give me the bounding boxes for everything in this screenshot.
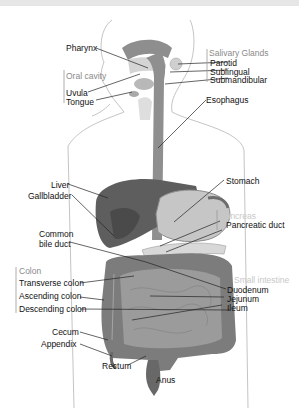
label-liver: Liver xyxy=(51,180,69,190)
label-rectum: Rectum xyxy=(102,361,131,371)
label-stomach: Stomach xyxy=(226,176,260,186)
group-label-oral-cavity: Oral cavity xyxy=(66,71,106,81)
label-ascending-colon: Ascending colon xyxy=(19,291,81,301)
label-descending-colon: Descending colon xyxy=(19,304,87,314)
label-pancreatic-duct: Pancreatic duct xyxy=(226,220,285,230)
label-common-bile-duct-line2: bile duct xyxy=(39,239,71,249)
label-ileum: Ileum xyxy=(227,303,248,313)
label-anus: Anus xyxy=(156,375,175,385)
group-label-small-intestine: Small intestine xyxy=(234,275,289,285)
label-submandibular: Submandibular xyxy=(210,75,267,85)
label-esophagus: Esophagus xyxy=(206,95,249,105)
label-tongue: Tongue xyxy=(66,97,94,107)
label-common-bile-duct-line1: Common xyxy=(39,229,73,239)
group-label-salivary-glands: Salivary Glands xyxy=(209,48,269,58)
head-structures xyxy=(122,40,182,120)
digestive-system-diagram: Salivary Glands Oral cavity Pancreas Col… xyxy=(0,0,299,408)
label-transverse-colon: Transverse colon xyxy=(19,278,84,288)
small-intestine-shape xyxy=(120,269,222,349)
label-appendix: Appendix xyxy=(41,339,76,349)
label-pharynx: Pharynx xyxy=(66,43,97,53)
label-cecum: Cecum xyxy=(52,327,79,337)
label-gallbladder: Gallbladder xyxy=(28,191,71,201)
group-label-colon: Colon xyxy=(19,266,41,276)
